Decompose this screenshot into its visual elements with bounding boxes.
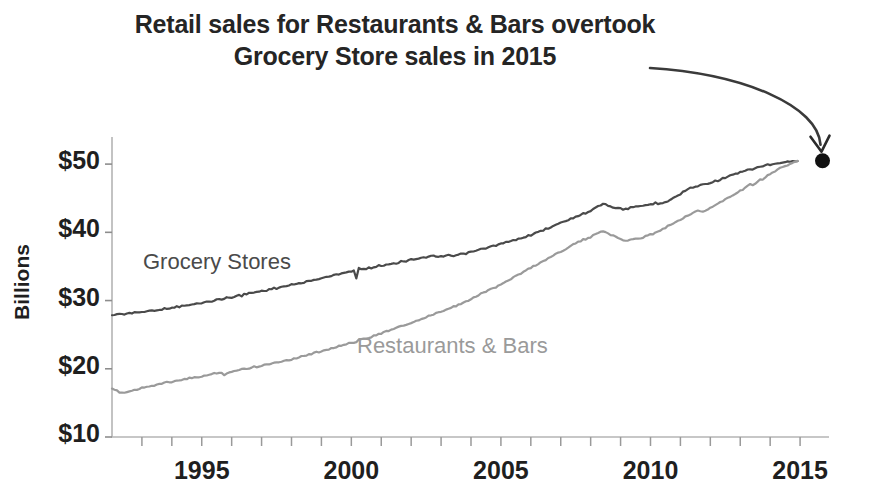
chart-root: Retail sales for Restaurants & Bars over… xyxy=(0,0,869,499)
axis-lines xyxy=(112,137,829,437)
annotation-arrow xyxy=(650,68,821,145)
plot-area xyxy=(0,0,869,499)
series-line-grocery-stores xyxy=(112,161,798,315)
series-label-restaurants-bars: Restaurants & Bars xyxy=(357,333,548,359)
series-label-grocery-stores: Grocery Stores xyxy=(143,249,291,275)
annotation-marker-dot xyxy=(815,153,830,168)
